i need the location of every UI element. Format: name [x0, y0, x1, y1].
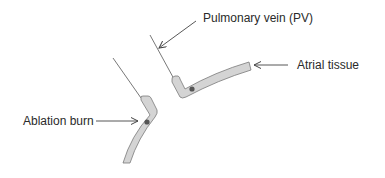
upper-tissue-segment: [172, 62, 251, 98]
ablation-burn-label: Ablation burn: [23, 115, 94, 127]
diagram-graphic: [0, 0, 385, 178]
left-boundary-line: [113, 58, 141, 98]
pv-boundary-line: [150, 35, 174, 79]
diagram-canvas: Pulmonary vein (PV) Atrial tissue Ablati…: [0, 0, 385, 178]
lower-burn-dot: [144, 119, 149, 124]
upper-burn-dot: [189, 86, 194, 91]
atrial-tissue-label: Atrial tissue: [297, 59, 359, 71]
lower-tissue-segment: [123, 96, 157, 163]
pulmonary-vein-label: Pulmonary vein (PV): [203, 12, 313, 24]
pv-pointer-arrow: [159, 21, 196, 48]
